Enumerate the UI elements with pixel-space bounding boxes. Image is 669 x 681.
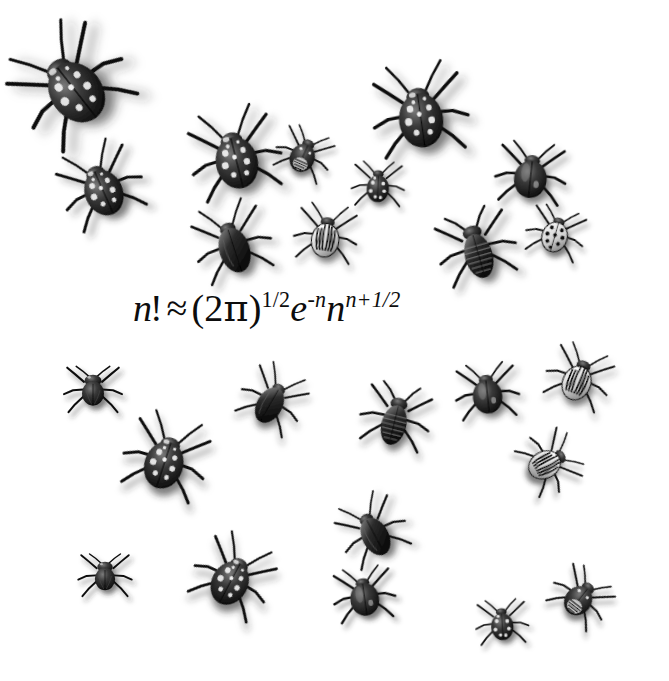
beetle-glyph bbox=[504, 416, 597, 509]
beetle-colorado-potato-beetle bbox=[504, 416, 597, 509]
beetle-striped-shell-bug bbox=[534, 550, 627, 643]
stirling-formula: n!≈(2π)1/2e-nnn+1/2 bbox=[133, 286, 400, 330]
beetle-glyph bbox=[287, 195, 366, 274]
beetle-ribbed-stag-beetle bbox=[349, 369, 443, 463]
formula-exponent-half: 1/2 bbox=[262, 287, 291, 312]
beetle-glyph bbox=[75, 543, 134, 602]
beetle-spotted-weevil bbox=[361, 53, 480, 172]
formula-paren-open: ( bbox=[191, 287, 204, 329]
beetle-glyph bbox=[179, 189, 286, 296]
beetle-colorado-potato-beetle bbox=[532, 330, 625, 423]
beetle-glyph bbox=[534, 550, 627, 643]
formula-e: e bbox=[290, 287, 307, 329]
beetle-glyph bbox=[349, 369, 443, 463]
beetle-glossy-dome bbox=[448, 352, 525, 429]
beetle-spotted-weevil bbox=[175, 519, 292, 636]
beetle-spotted-weevil bbox=[108, 400, 224, 516]
beetle-glyph bbox=[225, 351, 321, 447]
beetle-glyph bbox=[471, 591, 533, 653]
formula-exponent-minus-n: -n bbox=[307, 287, 326, 312]
beetle-glyph bbox=[532, 330, 625, 423]
formula-approx: ≈ bbox=[163, 287, 192, 329]
formula-paren-close: ) bbox=[249, 287, 262, 329]
beetle-glyph bbox=[61, 355, 125, 419]
formula-two: 2 bbox=[204, 287, 223, 329]
formula-pi: π bbox=[224, 286, 249, 330]
beetle-smooth-ground-beetle bbox=[179, 189, 286, 296]
beetle-smooth-ground-beetle bbox=[225, 351, 321, 447]
beetle-glossy-dome bbox=[325, 555, 402, 632]
beetle-glyph bbox=[108, 400, 224, 516]
beetle-hairy-fly-beetle bbox=[75, 543, 134, 602]
beetle-canvas: n!≈(2π)1/2e-nnn+1/2 bbox=[0, 0, 669, 681]
formula-factorial: ! bbox=[150, 287, 163, 329]
formula-exponent-n-plus-half: n+1/2 bbox=[345, 287, 400, 312]
beetle-colorado-potato-beetle bbox=[287, 195, 366, 274]
beetle-glyph bbox=[325, 555, 402, 632]
beetle-hairy-fly-beetle bbox=[61, 355, 125, 419]
beetle-glyph bbox=[361, 53, 480, 172]
formula-n2: n bbox=[326, 287, 345, 329]
beetle-ladybird-dark bbox=[471, 591, 533, 653]
beetle-glyph bbox=[448, 352, 525, 429]
beetle-glyph bbox=[175, 519, 292, 636]
